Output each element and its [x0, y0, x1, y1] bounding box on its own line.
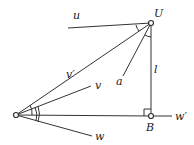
- angle-arc-outer-1: [35, 107, 37, 121]
- point-B: [149, 114, 154, 119]
- label-U: U: [154, 7, 164, 20]
- label-B: B: [145, 121, 154, 134]
- angle-arc-outer-2: [38, 106, 39, 122]
- label-l: l: [154, 63, 158, 76]
- label-a: a: [116, 75, 123, 88]
- label-w: w: [95, 130, 105, 143]
- label-v-prime: v′: [66, 68, 75, 81]
- line-w: [16, 115, 92, 136]
- diagram-canvas: u U v′ v a l w′ w B: [0, 0, 194, 145]
- origin-point: [14, 113, 19, 118]
- angle-arc-u: [136, 25, 139, 31]
- line-origin-to-B: [16, 115, 151, 116]
- label-u: u: [73, 9, 80, 22]
- line-u: [68, 23, 151, 28]
- line-v-prime: [16, 23, 151, 115]
- line-v: [16, 86, 91, 115]
- line-a: [123, 23, 151, 76]
- label-v: v: [95, 79, 102, 92]
- angle-arc-a: [145, 35, 151, 37]
- point-U: [149, 21, 154, 26]
- label-w-prime: w′: [175, 110, 187, 123]
